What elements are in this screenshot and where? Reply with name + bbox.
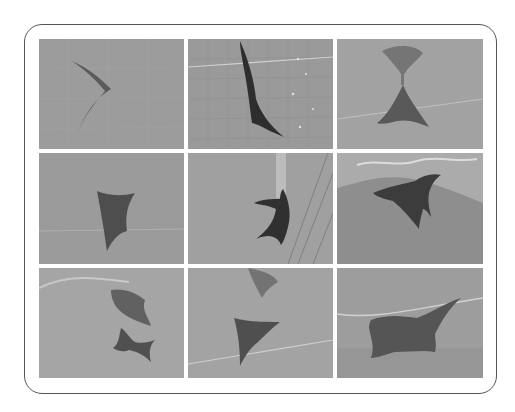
photo-grid bbox=[39, 39, 483, 378]
ray-image bbox=[39, 39, 184, 149]
photo-r2c2 bbox=[188, 153, 333, 264]
photo-r1c1 bbox=[39, 39, 184, 149]
photo-r1c2 bbox=[188, 39, 333, 149]
ray-image bbox=[337, 268, 483, 378]
photo-r2c1 bbox=[39, 153, 184, 264]
photo-r3c3 bbox=[337, 268, 483, 378]
photo-r3c2 bbox=[188, 268, 333, 378]
ray-image bbox=[188, 39, 333, 149]
photo-r3c1 bbox=[39, 268, 184, 378]
ray-image bbox=[337, 153, 483, 264]
ray-image bbox=[188, 268, 333, 378]
photo-r1c3 bbox=[337, 39, 483, 149]
ray-image bbox=[337, 39, 483, 149]
ray-image bbox=[39, 153, 184, 264]
ray-image bbox=[39, 268, 184, 378]
ray-image bbox=[188, 153, 333, 264]
photo-r2c3 bbox=[337, 153, 483, 264]
